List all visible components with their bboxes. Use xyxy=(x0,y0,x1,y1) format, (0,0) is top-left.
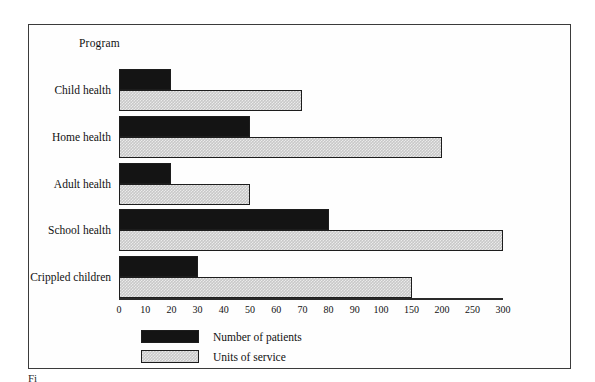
legend-swatch-dark xyxy=(141,330,199,343)
x-tick-100: 100 xyxy=(374,304,389,315)
bar-school-health-number-of-patients xyxy=(119,209,329,230)
x-tick-70: 70 xyxy=(297,304,307,315)
bar-adult-health-number-of-patients xyxy=(119,163,171,184)
category-label-crippled-children: Crippled children xyxy=(30,271,111,283)
legend-label: Number of patients xyxy=(213,331,302,343)
x-tick-30: 30 xyxy=(193,304,203,315)
figure-frame: Program Child healthHome healthAdult hea… xyxy=(28,24,571,369)
legend-item-units-of-service: Units of service xyxy=(141,348,302,365)
x-tick-50: 50 xyxy=(245,304,255,315)
bar-adult-health-units-of-service xyxy=(119,184,250,205)
chart-legend: Number of patientsUnits of service xyxy=(141,328,302,368)
bar-child-health-number-of-patients xyxy=(119,69,171,90)
bar-home-health-units-of-service xyxy=(119,137,442,158)
x-tick-250: 250 xyxy=(465,304,480,315)
x-tick-150: 150 xyxy=(404,304,419,315)
axis-title-program: Program xyxy=(79,37,120,49)
x-tick-20: 20 xyxy=(166,304,176,315)
bar-home-health-number-of-patients xyxy=(119,116,250,137)
legend-label: Units of service xyxy=(213,351,286,363)
plot-area: Program Child healthHome healthAdult hea… xyxy=(29,25,572,370)
x-tick-200: 200 xyxy=(435,304,450,315)
legend-item-number-of-patients: Number of patients xyxy=(141,328,302,345)
x-tick-90: 90 xyxy=(350,304,360,315)
x-tick-10: 10 xyxy=(140,304,150,315)
category-label-school-health: School health xyxy=(48,224,111,236)
x-tick-40: 40 xyxy=(219,304,229,315)
figure-caption: Fi xyxy=(28,372,37,382)
x-tick-60: 60 xyxy=(271,304,281,315)
x-tick-0: 0 xyxy=(117,304,122,315)
category-label-child-health: Child health xyxy=(54,84,111,96)
bar-school-health-units-of-service xyxy=(119,230,503,251)
bar-crippled-children-units-of-service xyxy=(119,277,412,298)
x-tick-300: 300 xyxy=(496,304,511,315)
bar-crippled-children-number-of-patients xyxy=(119,256,198,277)
x-axis-line xyxy=(119,298,503,300)
x-tick-80: 80 xyxy=(324,304,334,315)
bar-child-health-units-of-service xyxy=(119,90,302,111)
category-label-home-health: Home health xyxy=(52,131,111,143)
legend-swatch-hatch xyxy=(141,350,199,363)
category-label-adult-health: Adult health xyxy=(54,178,111,190)
